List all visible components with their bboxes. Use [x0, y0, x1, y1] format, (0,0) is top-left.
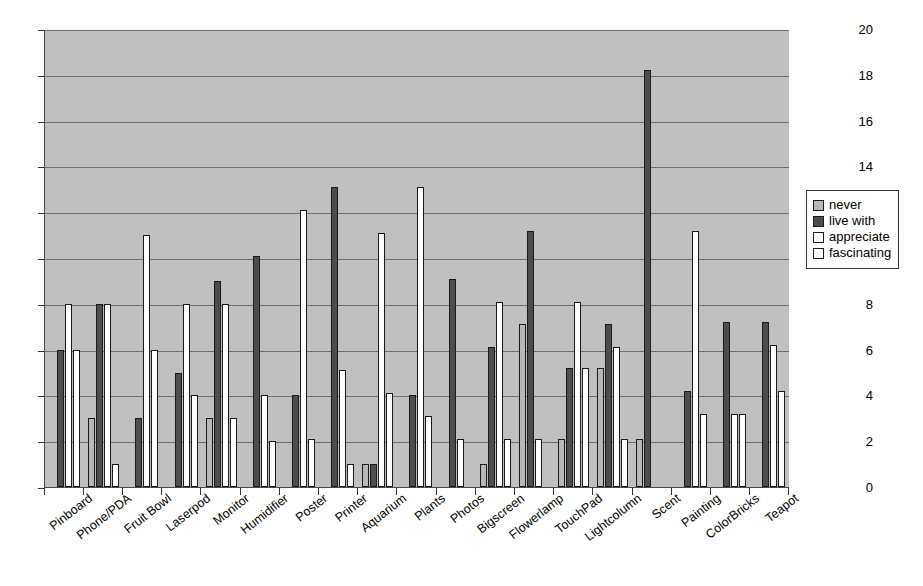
y-tick-label: 2 [835, 435, 879, 448]
bar-live-with [175, 373, 182, 488]
bar-groups [45, 30, 789, 487]
bar-fascinating [191, 395, 198, 487]
y-axis [0, 0, 44, 489]
bar-never [480, 464, 487, 487]
bar-live-with [566, 368, 573, 487]
x-axis-label: Poster [294, 492, 330, 524]
bar-never [636, 439, 643, 487]
bar-live-with [370, 464, 377, 487]
bar-fascinating [739, 414, 746, 487]
plot-area [44, 30, 789, 488]
bar-group [397, 30, 436, 487]
legend-item-appreciate[interactable]: appreciate [813, 230, 891, 244]
bar-group [280, 30, 319, 487]
y-tick-label: 8 [835, 298, 879, 311]
bar-fascinating [425, 416, 432, 487]
bar-appreciate [222, 304, 229, 487]
bar-live-with [253, 256, 260, 487]
bar-appreciate [574, 302, 581, 487]
y-tick-mark [38, 30, 44, 31]
bar-fascinating [230, 418, 237, 487]
bar-fascinating [386, 393, 393, 487]
bar-live-with [135, 418, 142, 487]
bar-live-with [644, 70, 651, 487]
bar-fascinating [347, 464, 354, 487]
bar-group [241, 30, 280, 487]
bar-appreciate [261, 395, 268, 487]
bar-chart: 02468101214161820 PinboardPhone/PDAFruit… [0, 0, 923, 586]
legend-label: fascinating [829, 246, 891, 260]
bar-appreciate [183, 304, 190, 487]
legend-item-never[interactable]: never [813, 198, 891, 212]
y-tick-mark [38, 213, 44, 214]
bar-group [123, 30, 162, 487]
y-tick-label: 6 [835, 344, 879, 357]
bar-fascinating [308, 439, 315, 487]
y-tick-mark [38, 442, 44, 443]
y-tick-label: 20 [835, 23, 879, 36]
x-axis-label: Scent [650, 492, 683, 522]
legend-label: never [829, 198, 862, 212]
legend-label: live with [829, 214, 875, 228]
bar-fascinating [504, 439, 511, 487]
bar-appreciate [692, 231, 699, 487]
bar-appreciate [300, 210, 307, 487]
y-tick-label: 18 [835, 69, 879, 82]
bar-group [319, 30, 358, 487]
bar-live-with [292, 395, 299, 487]
bar-group [358, 30, 397, 487]
x-axis-label: Plants [413, 492, 448, 524]
bar-never [88, 418, 95, 487]
legend-swatch-live-with-icon [813, 216, 824, 227]
bar-live-with [409, 395, 416, 487]
bar-group [202, 30, 241, 487]
bar-live-with [331, 187, 338, 487]
bar-never [558, 439, 565, 487]
legend-item-live-with[interactable]: live with [813, 214, 891, 228]
bar-group [437, 30, 476, 487]
legend-swatch-never-icon [813, 200, 824, 211]
bar-fascinating [582, 368, 589, 487]
bar-never [206, 418, 213, 487]
bar-fascinating [73, 350, 80, 487]
bar-appreciate [378, 233, 385, 487]
y-tick-mark [38, 122, 44, 123]
bar-group [476, 30, 515, 487]
bar-fascinating [778, 391, 785, 487]
y-tick-label: 16 [835, 115, 879, 128]
bar-never [519, 324, 526, 487]
bar-appreciate [613, 347, 620, 487]
x-axis-labels: PinboardPhone/PDAFruit BowlLaserpodMonit… [44, 492, 789, 586]
bar-live-with [57, 350, 64, 487]
bar-group [162, 30, 201, 487]
bar-never [597, 368, 604, 487]
y-tick-label: 4 [835, 389, 879, 402]
y-tick-mark [38, 351, 44, 352]
y-tick-mark [38, 259, 44, 260]
bar-appreciate [496, 302, 503, 487]
legend-item-fascinating[interactable]: fascinating [813, 246, 891, 260]
bar-live-with [488, 347, 495, 487]
bar-never [362, 464, 369, 487]
legend-label: appreciate [829, 230, 890, 244]
bar-live-with [605, 324, 612, 487]
bar-appreciate [417, 187, 424, 487]
y-tick-label: 0 [835, 481, 879, 494]
bar-appreciate [65, 304, 72, 487]
bar-live-with [684, 391, 691, 487]
bar-appreciate [731, 414, 738, 487]
bar-live-with [214, 281, 221, 487]
bar-live-with [723, 322, 730, 487]
bar-appreciate [339, 370, 346, 487]
bar-appreciate [535, 439, 542, 487]
bar-group [672, 30, 711, 487]
y-tick-mark [38, 76, 44, 77]
bar-fascinating [112, 464, 119, 487]
y-tick-mark [38, 305, 44, 306]
bar-appreciate [104, 304, 111, 487]
y-tick-mark [38, 167, 44, 168]
bar-appreciate [457, 439, 464, 487]
legend-swatch-appreciate-icon [813, 232, 824, 243]
bar-group [711, 30, 750, 487]
bar-fascinating [700, 414, 707, 487]
